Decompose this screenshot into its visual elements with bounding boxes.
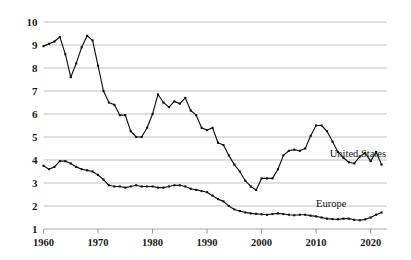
data-point [266, 177, 268, 179]
data-point [59, 160, 61, 162]
data-point [277, 168, 279, 170]
data-point [190, 188, 192, 190]
x-tick-label-1970: 1970 [88, 237, 109, 248]
data-point [152, 113, 154, 115]
data-point [146, 127, 148, 129]
data-point [353, 219, 355, 221]
data-point [288, 150, 290, 152]
data-point [119, 114, 121, 116]
data-point [331, 141, 333, 143]
data-point [130, 185, 132, 187]
data-point [92, 170, 94, 172]
data-point [211, 127, 213, 129]
data-point [326, 218, 328, 220]
data-point [353, 162, 355, 164]
data-point [173, 100, 175, 102]
data-point [97, 65, 99, 67]
x-axis-ticks: 1960197019801990200020102020 [33, 229, 381, 248]
data-point [97, 174, 99, 176]
data-point [233, 208, 235, 210]
data-point [277, 212, 279, 214]
x-tick-label-1980: 1980 [142, 237, 163, 248]
series-1 [42, 35, 382, 191]
y-tick-label-8: 8 [32, 62, 38, 74]
y-axis-ticks: 12345678910 [27, 16, 39, 235]
data-point [42, 45, 44, 47]
data-point [304, 147, 306, 149]
data-point [381, 211, 383, 213]
data-point [179, 184, 181, 186]
data-point [222, 144, 224, 146]
data-point [364, 218, 366, 220]
data-point [184, 185, 186, 187]
data-point [86, 169, 88, 171]
data-point [255, 189, 257, 191]
data-point [271, 213, 273, 215]
data-point [113, 104, 115, 106]
data-point [282, 213, 284, 215]
data-point [299, 150, 301, 152]
data-point [64, 53, 66, 55]
y-tick-label-4: 4 [32, 154, 38, 166]
x-tick-label-1990: 1990 [197, 237, 218, 248]
data-point [75, 166, 77, 168]
data-point [299, 214, 301, 216]
data-point [152, 185, 154, 187]
data-point [250, 185, 252, 187]
data-point [315, 215, 317, 217]
y-tick-label-5: 5 [32, 131, 38, 143]
data-point [359, 219, 361, 221]
data-point [108, 101, 110, 103]
data-point [337, 218, 339, 220]
chart-container: 123456789101960197019801990200020102020U… [0, 0, 411, 260]
y-tick-label-1: 1 [32, 223, 38, 235]
data-point [288, 214, 290, 216]
data-point [239, 210, 241, 212]
series-2 [42, 160, 382, 221]
data-point [59, 36, 61, 38]
data-point [108, 184, 110, 186]
data-point [184, 97, 186, 99]
data-point [48, 43, 50, 45]
data-point [211, 195, 213, 197]
data-point [173, 184, 175, 186]
data-point [261, 213, 263, 215]
data-point [375, 214, 377, 216]
y-tick-label-2: 2 [32, 200, 38, 212]
data-point [141, 136, 143, 138]
data-point [86, 35, 88, 37]
data-point [195, 189, 197, 191]
y-tick-label-9: 9 [32, 39, 38, 51]
series-label-1: United States [330, 148, 386, 159]
data-point [81, 46, 83, 48]
data-point [146, 185, 148, 187]
data-point [255, 213, 257, 215]
data-point [141, 185, 143, 187]
data-point [293, 214, 295, 216]
data-point [381, 164, 383, 166]
data-point [326, 130, 328, 132]
data-point [135, 136, 137, 138]
series-line-2 [44, 161, 382, 220]
data-point [130, 130, 132, 132]
data-point [315, 124, 317, 126]
data-point [370, 160, 372, 162]
data-point [370, 216, 372, 218]
data-point [261, 177, 263, 179]
data-point [201, 127, 203, 129]
data-point [168, 106, 170, 108]
data-point [42, 165, 44, 167]
line-chart: 123456789101960197019801990200020102020U… [0, 0, 411, 260]
x-tick-label-1960: 1960 [33, 237, 54, 248]
data-point [53, 41, 55, 43]
data-point [250, 212, 252, 214]
data-point [113, 185, 115, 187]
x-tick-label-2000: 2000 [251, 237, 272, 248]
x-tick-label-2020: 2020 [360, 237, 381, 248]
data-point [271, 177, 273, 179]
data-point [244, 180, 246, 182]
data-point [310, 135, 312, 137]
data-point [157, 187, 159, 189]
data-point [162, 101, 164, 103]
data-point [233, 164, 235, 166]
